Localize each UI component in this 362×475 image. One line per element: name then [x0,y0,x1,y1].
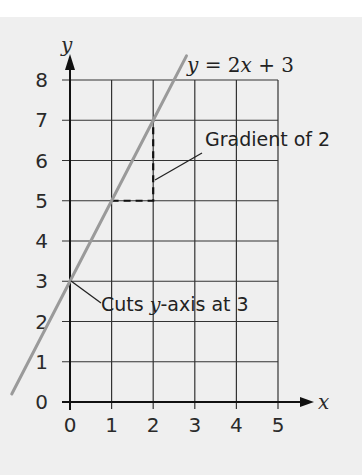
y-tick-label: 1 [35,350,48,374]
y-tick-label: 3 [35,269,48,293]
gradient-label: Gradient of 2 [205,128,330,150]
cuts-y-axis-label: Cuts y-axis at 3 [101,293,249,315]
x-tick-label: 5 [272,413,285,437]
y-tick-label: 8 [35,68,48,92]
x-tick-label: 1 [105,413,118,437]
line-graph: 012345678012345 Gradient of 2 Cuts y-axi… [0,0,362,475]
series-line [12,56,187,394]
x-tick-label: 0 [64,413,77,437]
tick-labels: 012345678012345 [35,68,284,437]
equation-label: y = 2x + 3 [186,53,294,77]
y-tick-label: 0 [35,390,48,414]
x-tick-label: 4 [230,413,243,437]
y-axis-name: y [60,33,73,57]
y-tick-label: 7 [35,108,48,132]
y-tick-label: 6 [35,149,48,173]
y-tick-label: 5 [35,189,48,213]
x-axis-arrow-icon [300,397,314,407]
x-tick-label: 3 [188,413,201,437]
cuts-leader-line [71,281,101,303]
x-tick-label: 2 [147,413,160,437]
x-axis-name: x [318,390,329,414]
y-tick-label: 4 [35,229,48,253]
axes [62,54,314,410]
line-y-equals-2x-plus-3 [12,56,187,394]
